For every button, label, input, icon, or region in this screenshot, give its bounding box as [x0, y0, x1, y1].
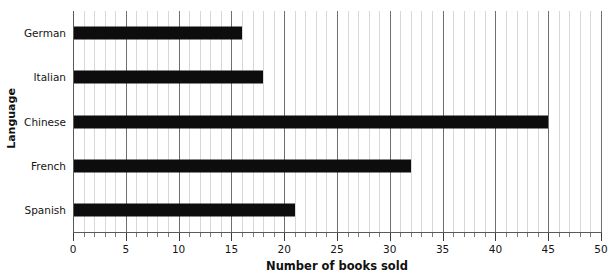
x-axis-tick-label: 35	[436, 243, 449, 255]
bar	[73, 203, 295, 216]
x-tick-minor	[506, 233, 507, 237]
x-tick-minor	[94, 233, 95, 237]
x-tick-minor	[517, 233, 518, 237]
x-tick-minor	[411, 233, 412, 237]
x-tick-minor	[348, 233, 349, 237]
x-tick-minor	[242, 233, 243, 237]
x-tick-minor	[569, 233, 570, 237]
gridline-major	[601, 11, 602, 232]
x-tick-minor	[559, 233, 560, 237]
bar	[73, 71, 263, 84]
x-tick-minor	[263, 233, 264, 237]
x-tick-minor	[295, 233, 296, 237]
x-axis-tick-label: 15	[225, 243, 238, 255]
x-tick-major	[73, 233, 74, 241]
x-tick-minor	[210, 233, 211, 237]
x-axis-tick-label: 30	[383, 243, 396, 255]
y-axis-tick-label: Chinese	[12, 116, 66, 128]
x-tick-major	[337, 233, 338, 241]
x-tick-minor	[189, 233, 190, 237]
y-axis-tick-label: French	[12, 160, 66, 172]
x-axis-tick-label: 5	[122, 243, 129, 255]
x-tick-minor	[538, 233, 539, 237]
x-tick-minor	[200, 233, 201, 237]
gridline-minor	[580, 11, 581, 232]
x-axis-tick-label: 20	[278, 243, 291, 255]
x-tick-minor	[527, 233, 528, 237]
x-tick-major	[126, 233, 127, 241]
x-tick-major	[548, 233, 549, 241]
plot-area	[73, 11, 601, 232]
gridline-minor	[569, 11, 570, 232]
x-tick-minor	[157, 233, 158, 237]
x-tick-minor	[379, 233, 380, 237]
x-tick-minor	[147, 233, 148, 237]
gridline-major	[548, 11, 549, 232]
x-tick-minor	[115, 233, 116, 237]
x-tick-minor	[274, 233, 275, 237]
x-tick-minor	[305, 233, 306, 237]
x-tick-minor	[580, 233, 581, 237]
x-tick-major	[231, 233, 232, 241]
x-tick-minor	[369, 233, 370, 237]
x-axis-tick-label: 40	[489, 243, 502, 255]
gridline-minor	[559, 11, 560, 232]
x-tick-minor	[432, 233, 433, 237]
bar	[73, 27, 242, 40]
x-axis-tick-label: 0	[70, 243, 77, 255]
x-axis-title: Number of books sold	[73, 259, 601, 273]
x-tick-major	[284, 233, 285, 241]
x-tick-minor	[253, 233, 254, 237]
x-axis-tick-label: 10	[172, 243, 185, 255]
y-axis-tick-label: Italian	[12, 71, 66, 83]
x-tick-major	[390, 233, 391, 241]
x-tick-minor	[105, 233, 106, 237]
x-tick-minor	[421, 233, 422, 237]
y-axis-tick-label: German	[12, 27, 66, 39]
x-tick-major	[179, 233, 180, 241]
x-tick-major	[443, 233, 444, 241]
y-axis-line	[73, 11, 74, 233]
x-tick-minor	[453, 233, 454, 237]
x-tick-minor	[84, 233, 85, 237]
x-axis-tick-label: 50	[594, 243, 607, 255]
y-axis-tick-labels: GermanItalianChineseFrenchSpanish	[16, 11, 70, 232]
x-tick-major	[495, 233, 496, 241]
x-tick-major	[601, 233, 602, 241]
x-tick-minor	[400, 233, 401, 237]
bar-chart: Language GermanItalianChineseFrenchSpani…	[0, 0, 612, 279]
x-tick-minor	[326, 233, 327, 237]
x-tick-minor	[590, 233, 591, 237]
x-axis-tick-label: 25	[330, 243, 343, 255]
x-tick-minor	[168, 233, 169, 237]
y-axis-tick-label: Spanish	[12, 204, 66, 216]
x-tick-minor	[485, 233, 486, 237]
x-tick-minor	[358, 233, 359, 237]
x-tick-minor	[136, 233, 137, 237]
bar	[73, 115, 548, 128]
bar	[73, 159, 411, 172]
x-tick-minor	[221, 233, 222, 237]
x-tick-minor	[474, 233, 475, 237]
x-axis-tick-label: 45	[542, 243, 555, 255]
x-tick-minor	[316, 233, 317, 237]
gridline-minor	[590, 11, 591, 232]
x-tick-minor	[464, 233, 465, 237]
